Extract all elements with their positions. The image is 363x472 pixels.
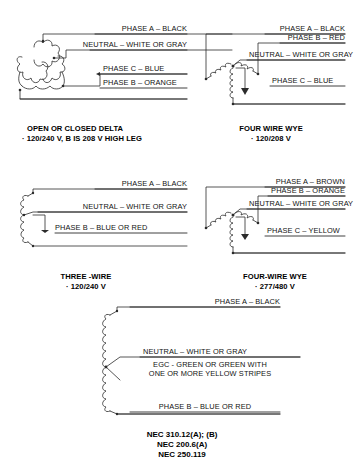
- caption-delta-title: OPEN OR CLOSED DELTA: [27, 124, 123, 134]
- caption-wye480-sub: · 277/480 V: [212, 282, 338, 292]
- label-bottom-phase-b: PHASE B – BLUE OR RED: [130, 402, 280, 411]
- label-bottom-neutral: NEUTRAL – WHITE OR GRAY: [143, 347, 247, 356]
- label-bottom-egc-line1: EGC - GREEN OR GREEN WITH: [120, 360, 300, 369]
- caption-delta-sub: · 120/240 V, B IS 208 V HIGH LEG: [22, 134, 142, 144]
- nec-reference-line-3: NEC 250.119: [82, 450, 282, 461]
- label-delta-phase-c: PHASE C – BLUE: [103, 64, 164, 73]
- caption-threewire-sub: · 120/240 V: [22, 282, 150, 292]
- label-threewire-phase-b: PHASE B – BLUE OR RED: [55, 223, 147, 232]
- label-wye208-phase-c: PHASE C – BLUE: [272, 76, 333, 85]
- label-delta-phase-a: PHASE A – BLACK: [95, 24, 187, 33]
- label-bottom-phase-a: PHASE A – BLACK: [130, 297, 280, 306]
- nec-reference-line-2: NEC 200.6(A): [82, 440, 282, 451]
- label-wye208-phase-a: PHASE A – BLACK: [253, 24, 345, 33]
- label-wye480-neutral: NEUTRAL – WHITE OR GRAY: [249, 199, 353, 208]
- caption-wye480-title: FOUR-WIRE WYE: [212, 272, 338, 282]
- label-wye480-phase-b: PHASE B – ORANGE: [245, 186, 345, 195]
- nec-reference-line-1: NEC 310.12(A); (B): [82, 430, 282, 441]
- diagram-canvas: PHASE A – BLACK NEUTRAL – WHITE OR GRAY …: [0, 0, 363, 472]
- label-wye208-phase-b: PHASE B – RED: [265, 33, 345, 42]
- caption-wye208-sub: · 120/208 V: [212, 134, 330, 144]
- label-threewire-neutral: NEUTRAL – WHITE OR GRAY: [38, 202, 187, 211]
- label-wye480-phase-c: PHASE C – YELLOW: [267, 226, 340, 235]
- label-delta-phase-b: PHASE B – ORANGE: [103, 78, 177, 87]
- caption-wye208-title: FOUR WIRE WYE: [212, 124, 330, 134]
- label-bottom-egc-line2: ONE OR MORE YELLOW STRIPES: [115, 369, 305, 378]
- label-threewire-phase-a: PHASE A – BLACK: [95, 179, 187, 188]
- label-wye480-phase-a: PHASE A – BROWN: [245, 177, 345, 186]
- label-delta-neutral: NEUTRAL – WHITE OR GRAY: [66, 40, 187, 49]
- caption-threewire-title: THREE -WIRE: [22, 272, 150, 282]
- label-wye208-neutral: NEUTRAL – WHITE OR GRAY: [249, 50, 353, 59]
